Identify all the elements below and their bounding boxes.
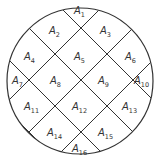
region-label-a8: A8 (49, 75, 61, 89)
region-label-a11: A11 (23, 101, 39, 115)
region-label-a1: A1 (73, 5, 85, 19)
diagram-canvas: A1A2A3A4A5A6A7A8A9A10A11A12A13A14A15A16 (0, 0, 160, 164)
region-label-a3: A3 (99, 25, 111, 39)
region-label-a13: A13 (121, 101, 137, 115)
region-label-a7: A7 (11, 75, 23, 89)
region-label-a16: A16 (71, 143, 87, 157)
region-label-a5: A5 (73, 51, 85, 65)
region-label-a15: A15 (97, 127, 113, 141)
region-label-a6: A6 (124, 51, 136, 65)
region-label-a9: A9 (97, 75, 109, 89)
region-label-a2: A2 (48, 25, 60, 39)
region-label-a12: A12 (71, 101, 87, 115)
region-label-a14: A14 (46, 127, 62, 141)
partitioned-circle-diagram: A1A2A3A4A5A6A7A8A9A10A11A12A13A14A15A16 (0, 0, 160, 164)
region-label-a10: A10 (133, 75, 149, 89)
region-label-a4: A4 (23, 51, 35, 65)
